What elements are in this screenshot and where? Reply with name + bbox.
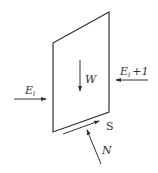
left-interslice-label: Ei (24, 84, 35, 98)
shear-label: S (106, 120, 114, 133)
normal-arrow (87, 130, 101, 164)
weight-label: W (85, 73, 98, 86)
shear-arrow (63, 121, 99, 134)
slice-parallelogram (53, 12, 109, 132)
normal-label: N (101, 144, 112, 157)
right-interslice-label: Ei+1 (119, 65, 149, 79)
force-diagram: W Ei Ei+1 S N (0, 0, 158, 173)
